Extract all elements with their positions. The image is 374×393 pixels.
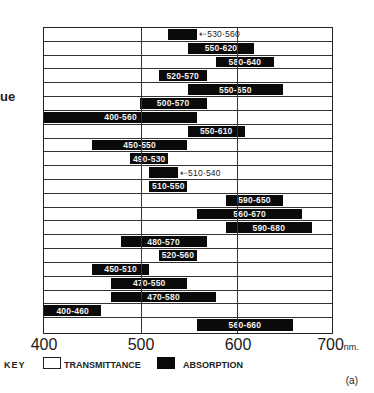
chart-row: 450-510 [44,263,332,277]
chart-row: ⇠510·540 [44,166,332,180]
bar-range-label: 550-620 [188,42,255,55]
bar-range-label: ⇠530·560 [199,28,259,41]
bar-range-label: 550-650 [188,83,284,96]
bar-range-label: 490-530 [130,152,168,165]
bar-range-label: 590-680 [226,221,312,234]
bar-range-label: 500-570 [140,97,207,110]
bar-range-label: 520-560 [159,249,197,262]
filter-range-chart: ⇠530·560550-620580-640520-570550-650500-… [43,27,333,334]
legend-key-label: KEY [4,360,26,370]
chart-row: 590-650 [44,194,332,208]
chart-row: 550-620 [44,42,332,56]
bar-range-label: 450-550 [92,139,188,152]
bar-range-label: 590-650 [226,194,283,207]
chart-row: 550-610 [44,125,332,139]
x-tick-600: 600 [225,336,252,354]
chart-row: 560-670 [44,208,332,222]
bar-range-label: 470-550 [111,277,188,290]
bar-range-label: 510-550 [149,180,187,193]
absorption-bar [168,29,197,40]
chart-row: 470-580 [44,291,332,305]
gridline-600 [237,28,238,333]
chart-row: ⇠530·560 [44,28,332,42]
cropped-side-text: ue [0,89,15,104]
bar-range-label: 480-570 [121,235,207,248]
chart-row: 480-570 [44,235,332,249]
legend-transmittance-label: TRANSMITTANCE [64,360,141,370]
bar-range-label: 470-580 [111,291,216,304]
bar-range-label: 520-570 [159,69,207,82]
panel-label: (a) [346,375,358,386]
bar-range-label: 560-660 [197,318,293,332]
x-tick-400: 400 [31,336,58,354]
chart-row: 520-560 [44,249,332,263]
absorption-swatch-icon [157,357,175,369]
chart-row: 510-550 [44,180,332,194]
chart-row: 470-550 [44,277,332,291]
x-tick-700: 700nm. [317,336,359,354]
chart-row: 500-570 [44,97,332,111]
absorption-bar [149,167,178,178]
bar-range-label: 400-560 [44,111,197,124]
x-tick-500: 500 [128,336,155,354]
gridline-500 [141,28,142,333]
chart-row: 490-530 [44,152,332,166]
bar-range-label: 400-460 [44,304,101,317]
x-axis-unit: nm. [344,342,359,352]
chart-row: 400-560 [44,111,332,125]
bar-range-label: 560-670 [197,208,302,221]
chart-row: 450-550 [44,139,332,153]
chart-row: 560-660 [44,318,332,332]
transmittance-swatch-icon [43,357,61,369]
chart-row: 400-460 [44,304,332,318]
bar-range-label: 580-640 [216,56,273,69]
bar-range-label: 550-610 [188,125,245,138]
legend-absorption-label: ABSORPTION [183,360,243,370]
chart-row: 590-680 [44,221,332,235]
chart-row: 550-650 [44,83,332,97]
bar-range-label: ⇠510·540 [180,166,240,179]
legend: KEY TRANSMITTANCE ABSORPTION [0,357,374,373]
chart-row: 520-570 [44,69,332,83]
chart-row: 580-640 [44,56,332,70]
x-tick-700-value: 700 [317,336,344,353]
